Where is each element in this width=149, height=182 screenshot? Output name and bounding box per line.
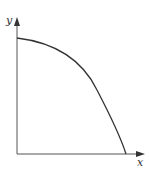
x-axis-label: x xyxy=(137,156,144,169)
y-axis xyxy=(14,17,20,154)
diagram: y x xyxy=(0,0,149,182)
y-axis-label: y xyxy=(5,14,13,27)
frontier-curve xyxy=(17,38,126,154)
y-axis-arrow-icon xyxy=(14,17,20,26)
